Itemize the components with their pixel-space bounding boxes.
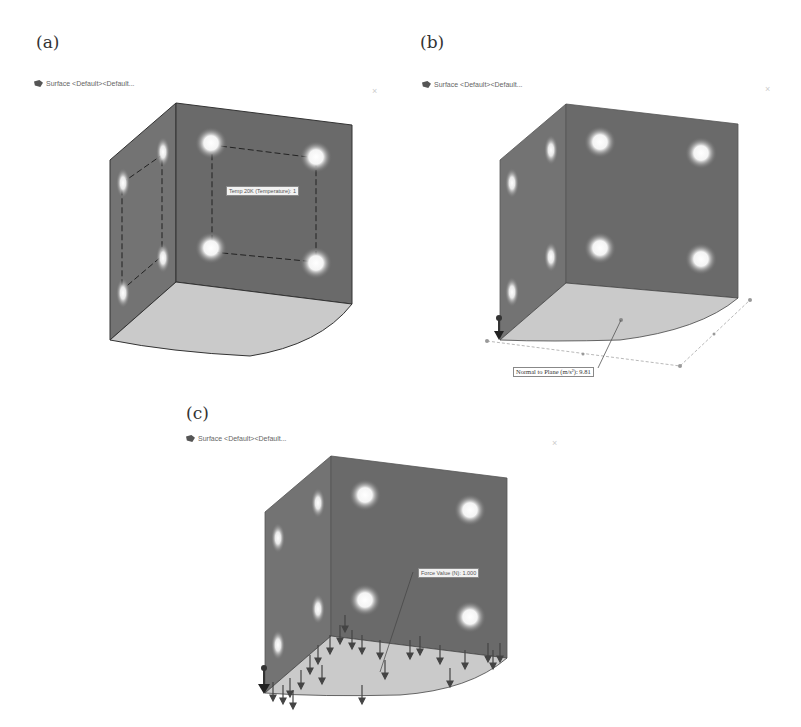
panel-c-tree-text: Surface <Default><Default... xyxy=(198,435,287,442)
panel-a-model xyxy=(0,0,801,727)
panel-b-tree-item[interactable]: Surface <Default><Default... xyxy=(422,81,523,88)
surface-icon xyxy=(186,435,195,442)
panel-c-callout: Force Value (N): 1.000 xyxy=(418,568,479,578)
surface-icon xyxy=(422,81,431,88)
panel-a-callout: Temp 20K (Temperature): 1 xyxy=(226,186,299,196)
panel-b-callout: Normal to Plane (m/s²): 9.81 xyxy=(513,367,594,377)
close-icon[interactable]: × xyxy=(765,84,770,94)
panel-b-tree-text: Surface <Default><Default... xyxy=(434,81,523,88)
panel-c-label: (c) xyxy=(186,403,209,423)
panel-c-tree-item[interactable]: Surface <Default><Default... xyxy=(186,435,287,442)
panel-b-label: (b) xyxy=(420,32,444,52)
panel-b-cube xyxy=(485,104,752,368)
panel-a-cube xyxy=(110,103,352,356)
close-icon[interactable]: × xyxy=(552,438,557,448)
